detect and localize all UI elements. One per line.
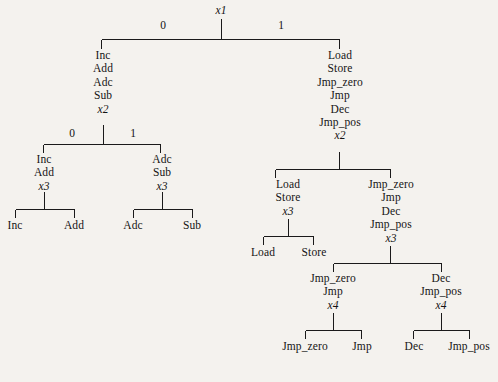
node-rrr-item-0: Dec bbox=[420, 272, 462, 285]
leaf-load: Load bbox=[251, 246, 275, 259]
leaf-adc: Adc bbox=[123, 219, 142, 232]
node-right-right-variable: x3 bbox=[368, 232, 414, 245]
leaf-store: Store bbox=[302, 246, 327, 259]
leaf-jmp: Jmp bbox=[352, 340, 371, 353]
node-root-variable: x1 bbox=[215, 4, 226, 17]
node-left-right-item-0: Adc bbox=[152, 153, 171, 166]
edge-label-root-0: 0 bbox=[160, 19, 166, 31]
node-rrr: Dec Jmp_pos x4 bbox=[420, 272, 462, 312]
edge-label-root-1: 1 bbox=[278, 19, 284, 31]
node-right-item-2: Jmp_zero bbox=[317, 76, 363, 89]
leaf-jmp-zero: Jmp_zero bbox=[282, 340, 328, 353]
leaf-add-left: Add bbox=[64, 219, 84, 232]
node-right-left: Load Store x3 bbox=[276, 178, 301, 218]
tree-connector-lines bbox=[0, 0, 498, 382]
node-left-left: Inc Add x3 bbox=[34, 153, 54, 193]
node-left-right-item-1: Sub bbox=[152, 166, 171, 179]
node-left-item-0: Inc bbox=[93, 49, 113, 62]
node-right-left-variable: x3 bbox=[276, 205, 301, 218]
node-rrr-variable: x4 bbox=[420, 299, 462, 312]
node-right: Load Store Jmp_zero Jmp Dec Jmp_pos x2 bbox=[317, 49, 363, 143]
edge-label-left-x2-1: 1 bbox=[130, 127, 136, 139]
node-right-right-item-0: Jmp_zero bbox=[368, 178, 414, 191]
node-rrl: Jmp_zero Jmp x4 bbox=[310, 272, 356, 312]
edge-label-left-x2-0: 0 bbox=[69, 127, 75, 139]
leaf-dec: Dec bbox=[405, 340, 424, 353]
node-rrl-variable: x4 bbox=[310, 299, 356, 312]
node-right-right-item-2: Dec bbox=[368, 205, 414, 218]
node-left-right-variable: x3 bbox=[152, 180, 171, 193]
node-right-item-4: Dec bbox=[317, 103, 363, 116]
node-right-variable: x2 bbox=[317, 129, 363, 142]
node-right-right: Jmp_zero Jmp Dec Jmp_pos x3 bbox=[368, 178, 414, 245]
node-left: Inc Add Adc Sub x2 bbox=[93, 49, 113, 116]
leaf-inc-left: Inc bbox=[8, 219, 23, 232]
node-left-left-item-0: Inc bbox=[34, 153, 54, 166]
leaf-jmp-pos: Jmp_pos bbox=[448, 340, 490, 353]
node-right-item-0: Load bbox=[317, 49, 363, 62]
node-right-right-item-1: Jmp bbox=[368, 191, 414, 204]
node-right-item-1: Store bbox=[317, 62, 363, 75]
node-left-item-2: Adc bbox=[93, 76, 113, 89]
node-right-item-5: Jmp_pos bbox=[317, 116, 363, 129]
node-right-item-3: Jmp bbox=[317, 89, 363, 102]
node-rrl-item-1: Jmp bbox=[310, 285, 356, 298]
node-right-right-item-3: Jmp_pos bbox=[368, 218, 414, 231]
node-right-left-item-0: Load bbox=[276, 178, 301, 191]
node-left-item-1: Add bbox=[93, 62, 113, 75]
node-left-right: Adc Sub x3 bbox=[152, 153, 171, 193]
node-left-item-3: Sub bbox=[93, 89, 113, 102]
node-left-left-variable: x3 bbox=[34, 180, 54, 193]
node-left-variable: x2 bbox=[93, 103, 113, 116]
leaf-sub: Sub bbox=[183, 219, 201, 232]
node-root-x1: x1 bbox=[215, 4, 226, 17]
node-left-left-item-1: Add bbox=[34, 166, 54, 179]
node-right-left-item-1: Store bbox=[276, 191, 301, 204]
node-rrr-item-1: Jmp_pos bbox=[420, 285, 462, 298]
node-rrl-item-0: Jmp_zero bbox=[310, 272, 356, 285]
